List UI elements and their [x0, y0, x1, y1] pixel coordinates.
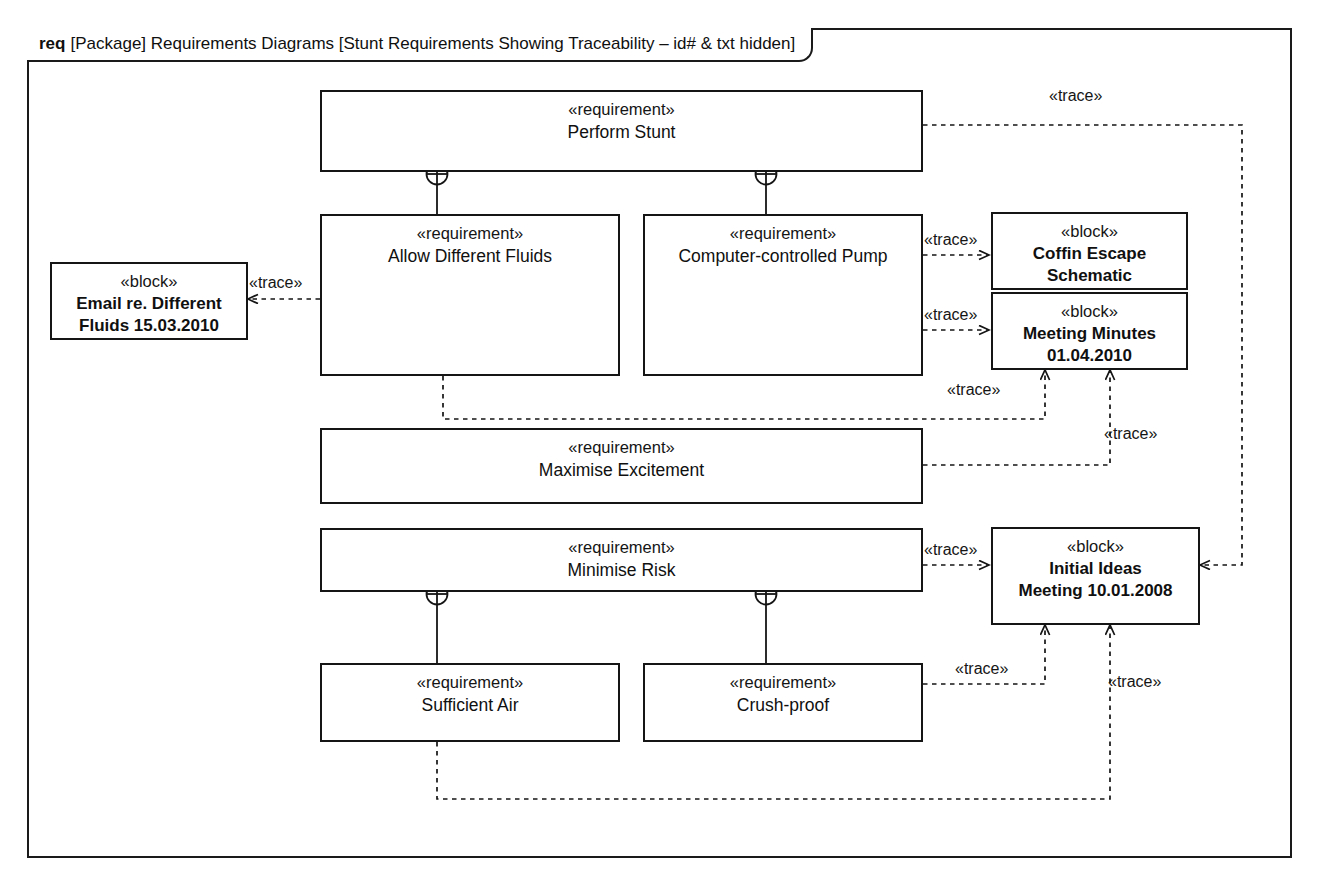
edge-label-maximise-excitement-to-meeting-minutes: «trace»: [1104, 425, 1157, 443]
node-name: Meeting Minutes 01.04.2010: [1023, 323, 1156, 367]
node-maximise-excitement[interactable]: «requirement» Maximise Excitement: [320, 428, 923, 504]
stereotype-label: «requirement»: [417, 223, 523, 245]
edge-label-minimise-risk-to-initial-ideas: «trace»: [924, 541, 977, 559]
edge-label-pump-to-coffin-escape: «trace»: [924, 231, 977, 249]
stereotype-label: «block»: [1061, 221, 1118, 243]
node-computer-controlled-pump[interactable]: «requirement» Computer-controlled Pump: [643, 214, 923, 376]
edge-label-crush-proof-to-initial-ideas: «trace»: [955, 660, 1008, 678]
node-sufficient-air[interactable]: «requirement» Sufficient Air: [320, 663, 620, 742]
edge-label-perform-stunt-to-initial-ideas: «trace»: [1049, 87, 1102, 105]
node-name: Allow Different Fluids: [388, 245, 552, 268]
node-allow-different-fluids[interactable]: «requirement» Allow Different Fluids: [320, 214, 620, 376]
node-name: Coffin Escape Schematic: [1033, 243, 1146, 287]
stereotype-label: «requirement»: [417, 672, 523, 694]
diagram-canvas: req [Package] Requirements Diagrams [Stu…: [0, 0, 1317, 883]
edge-label-sufficient-air-to-initial-ideas: «trace»: [1108, 673, 1161, 691]
stereotype-label: «requirement»: [568, 537, 674, 559]
node-coffin-escape-schematic[interactable]: «block» Coffin Escape Schematic: [991, 212, 1188, 290]
frame-title: [Package] Requirements Diagrams [Stunt R…: [70, 34, 795, 54]
node-name: Perform Stunt: [568, 121, 676, 144]
stereotype-label: «requirement»: [568, 437, 674, 459]
node-name: Sufficient Air: [422, 694, 519, 717]
node-name: Computer-controlled Pump: [678, 245, 887, 268]
diagram-frame-label: req [Package] Requirements Diagrams [Stu…: [27, 28, 813, 62]
node-minimise-risk[interactable]: «requirement» Minimise Risk: [320, 528, 923, 592]
stereotype-label: «requirement»: [730, 672, 836, 694]
node-email-re-different-fluids[interactable]: «block» Email re. Different Fluids 15.03…: [50, 262, 248, 340]
node-name: Initial Ideas Meeting 10.01.2008: [1018, 558, 1172, 602]
stereotype-label: «block»: [121, 271, 178, 293]
node-name: Crush-proof: [737, 694, 829, 717]
node-initial-ideas-meeting[interactable]: «block» Initial Ideas Meeting 10.01.2008: [991, 527, 1200, 625]
edge-label-allow-fluids-to-email: «trace»: [249, 274, 302, 292]
node-name: Email re. Different Fluids 15.03.2010: [76, 293, 222, 337]
node-crush-proof[interactable]: «requirement» Crush-proof: [643, 663, 923, 742]
stereotype-label: «block»: [1067, 536, 1124, 558]
node-meeting-minutes[interactable]: «block» Meeting Minutes 01.04.2010: [991, 292, 1188, 370]
stereotype-label: «requirement»: [568, 99, 674, 121]
stereotype-label: «requirement»: [730, 223, 836, 245]
node-perform-stunt[interactable]: «requirement» Perform Stunt: [320, 90, 923, 172]
node-name: Maximise Excitement: [539, 459, 704, 482]
frame-keyword: req: [39, 34, 65, 54]
edge-label-pump-to-meeting-minutes: «trace»: [924, 306, 977, 324]
stereotype-label: «block»: [1061, 301, 1118, 323]
node-name: Minimise Risk: [568, 559, 676, 582]
edge-label-allow-fluids-to-meeting-minutes: «trace»: [947, 381, 1000, 399]
